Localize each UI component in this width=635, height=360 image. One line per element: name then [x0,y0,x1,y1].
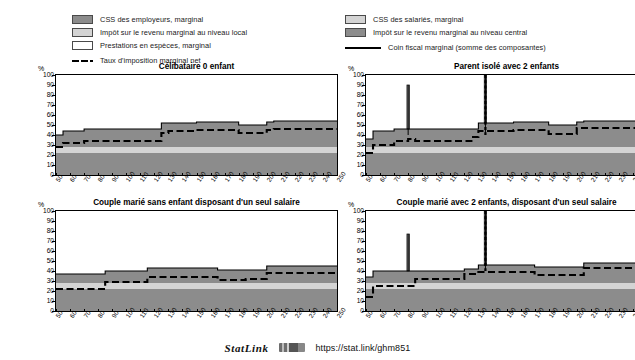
legend-item-label: Impôt sur le revenu marginal au niveau l… [100,28,247,37]
y-axis-tick [52,165,55,166]
y-axis-tick [52,135,55,136]
y-axis-tick [52,301,55,302]
y-axis-tick [362,281,365,282]
statlink-label: StatLink [225,342,269,354]
y-axis-tick [362,125,365,126]
y-axis-tick [52,241,55,242]
y-axis-tick [362,165,365,166]
panel-title: Couple marié avec 2 enfants, disposant d… [365,198,635,207]
chart-panel-couple-marie-2-enfants-un-salaire: Couple marié avec 2 enfants, disposant d… [330,198,635,354]
plot-area [365,210,635,312]
legend-item-label: Impôt sur le revenu marginal au niveau c… [373,28,527,37]
legend-swatch-icon [72,41,93,50]
y-axis-tick [362,155,365,156]
y-axis-tick [52,251,55,252]
area-series-2 [56,121,337,147]
chart-panel-parent-isole-2-enfants: Parent isolé avec 2 enfants%010203040506… [330,62,635,218]
y-axis-tick [362,271,365,272]
y-axis-tick [362,221,365,222]
y-axis-tick [52,155,55,156]
area-series-0 [56,153,337,175]
y-axis-tick [362,291,365,292]
area-series-1 [366,283,635,289]
chart-legend: CSS des employeurs, marginalImpôt sur le… [0,0,635,62]
legend-item: Impôt sur le revenu marginal au niveau c… [345,27,546,38]
y-axis-tick [52,271,55,272]
y-axis-tick [52,221,55,222]
y-axis-tick [362,115,365,116]
legend-swatch-icon [345,15,366,24]
y-axis: 0102030405060708090100 [347,74,365,176]
y-axis: 0102030405060708090100 [347,210,365,312]
legend-item: CSS des employeurs, marginal [72,14,247,25]
y-axis-tick [362,75,365,76]
y-axis-tick [52,211,55,212]
panel-title: Parent isolé avec 2 enfants [365,62,635,71]
legend-column-right: CSS des salariés, marginalImpôt sur le r… [345,14,546,55]
y-axis-tick [362,261,365,262]
area-series-2 [366,121,635,147]
y-axis-tick [362,95,365,96]
legend-item: Prestations en espèces, marginal [72,40,247,51]
plot-area [365,74,635,176]
panel-title: Couple marié sans enfant disposant d'un … [55,198,338,207]
y-axis-tick [362,301,365,302]
legend-swatch-icon [72,15,93,24]
statlink-barcode-icon [279,343,305,352]
legend-item-label: Coin fiscal marginal (somme des composan… [388,43,546,52]
panel-title: Célibataire 0 enfant [55,62,338,71]
y-axis-tick [52,231,55,232]
legend-item-label: Prestations en espèces, marginal [100,41,211,50]
legend-item-label: CSS des salariés, marginal [373,15,463,24]
y-axis-tick [52,95,55,96]
y-axis-tick [52,125,55,126]
statlink-url[interactable]: https://stat.link/ghm851 [315,343,410,353]
plot-area [55,210,338,312]
y-axis-tick [362,135,365,136]
y-axis-tick [52,105,55,106]
area-series-1 [56,147,337,153]
y-axis-tick [52,261,55,262]
legend-item: Impôt sur le revenu marginal au niveau l… [72,27,247,38]
y-axis-tick [52,85,55,86]
legend-swatch-icon [72,28,93,37]
legend-swatch-icon [345,28,366,37]
y-axis-tick [52,75,55,76]
legend-column-left: CSS des employeurs, marginalImpôt sur le… [72,14,247,68]
plot-svg [56,211,337,311]
chart-panel-couple-marie-sans-enfant-un-salaire: Couple marié sans enfant disposant d'un … [20,198,346,354]
y-axis-tick [362,145,365,146]
area-series-1 [366,147,635,153]
y-axis: 0102030405060708090100 [37,74,55,176]
y-axis-tick [362,85,365,86]
y-axis-tick [52,281,55,282]
area-series-0 [56,289,337,311]
plot-svg [366,75,635,175]
legend-solid-line-icon [345,43,381,52]
legend-item: Coin fiscal marginal (somme des composan… [345,42,546,53]
y-axis-tick [362,211,365,212]
chart-panel-celibataire-0-enfant: Célibataire 0 enfant%0102030405060708090… [20,62,346,218]
y-axis-tick [362,105,365,106]
y-axis-tick [362,231,365,232]
y-axis-tick [362,251,365,252]
y-axis-tick [52,145,55,146]
y-axis-tick [362,241,365,242]
y-axis: 0102030405060708090100 [37,210,55,312]
y-axis-tick [52,115,55,116]
legend-item: CSS des salariés, marginal [345,14,546,25]
y-axis-tick [52,291,55,292]
legend-item-label: CSS des employeurs, marginal [100,15,203,24]
plot-svg [56,75,337,175]
statlink-footer: StatLink https://stat.link/ghm851 [0,338,635,356]
plot-area [55,74,338,176]
plot-svg [366,211,635,311]
